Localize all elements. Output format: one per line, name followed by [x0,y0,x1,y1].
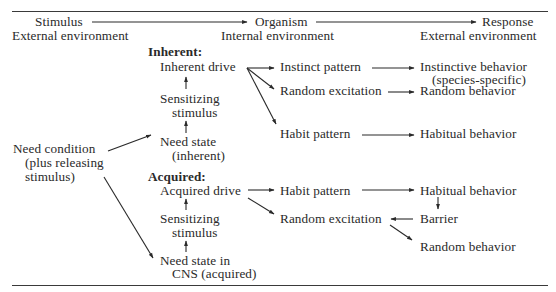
arrow-drive-habit [247,68,276,124]
arrow-layer [0,0,556,292]
arrow-need-to-acquired [104,177,153,258]
arrow-random-behavior-acq [390,225,412,240]
arrow-acq-drive-random [248,198,274,214]
arrow-drive-random [247,68,274,89]
arrow-need-to-inherent [108,135,151,151]
